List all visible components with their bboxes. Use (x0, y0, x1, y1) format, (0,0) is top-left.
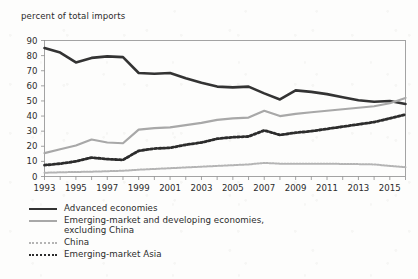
y-tick-label: 70 (27, 66, 38, 76)
x-tick-label: 2015 (379, 183, 401, 193)
x-tick-label: 1999 (128, 183, 150, 193)
x-tick-label: 2001 (159, 183, 181, 193)
y-tick-label: 50 (27, 96, 38, 106)
legend-swatch-china (28, 237, 58, 248)
x-tick-label: 2013 (347, 183, 369, 193)
legend-label-china: China (64, 237, 89, 247)
x-tick-label: 2011 (316, 183, 338, 193)
legend-swatch-emerging-excl-china (28, 215, 58, 226)
x-tick-label: 2007 (253, 183, 275, 193)
y-tick-label: 40 (27, 111, 38, 121)
x-tick-label: 1993 (34, 183, 56, 193)
x-tick-label: 1997 (96, 183, 118, 193)
x-tick-label: 2009 (285, 183, 307, 193)
y-tick-label: 30 (27, 126, 38, 136)
legend-item-emerging-market-asia: Emerging-market Asia (28, 249, 308, 260)
series-lines (45, 48, 406, 173)
y-tick-label: 80 (27, 51, 38, 61)
y-tick-label: 0 (32, 172, 37, 182)
x-tick-label: 2003 (191, 183, 213, 193)
x-tick-label: 2005 (222, 183, 244, 193)
chart-container: percent of total imports 010203040506070… (0, 0, 418, 279)
legend-item-china: China (28, 237, 308, 248)
series-line-2 (45, 163, 406, 173)
chart-legend: Advanced economies Emerging-market and d… (28, 203, 308, 261)
x-axis-ticks: 1993199519971999200120032005200720092011… (34, 177, 406, 193)
y-tick-label: 60 (27, 81, 38, 91)
legend-label-emerging-excl-china: Emerging-market and developing economies… (64, 215, 308, 236)
y-axis-ticks: 0102030405060708090 (27, 36, 45, 182)
y-tick-label: 90 (27, 36, 38, 46)
y-tick-label: 20 (27, 141, 38, 151)
chart-plot-area: 0102030405060708090 19931995199719992001… (0, 0, 418, 200)
legend-label-advanced-economies: Advanced economies (64, 203, 158, 213)
x-tick-label: 1995 (65, 183, 87, 193)
legend-item-emerging-excl-china: Emerging-market and developing economies… (28, 215, 308, 236)
legend-label-emerging-market-asia: Emerging-market Asia (64, 249, 162, 259)
y-tick-label: 10 (27, 156, 38, 166)
legend-swatch-emerging-market-asia (28, 249, 58, 260)
legend-item-advanced-economies: Advanced economies (28, 203, 308, 214)
series-line-0 (45, 48, 406, 104)
legend-swatch-advanced-economies (28, 203, 58, 214)
